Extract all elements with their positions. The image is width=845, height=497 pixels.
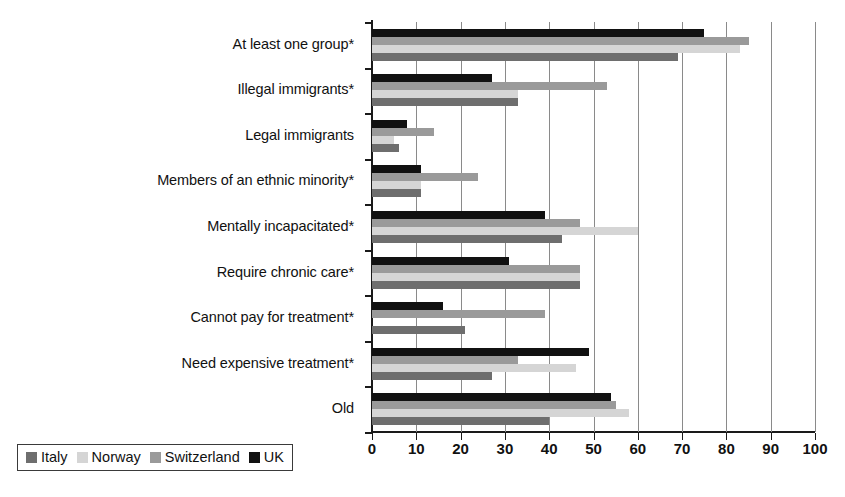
legend-swatch-icon bbox=[26, 452, 37, 463]
legend-swatch-icon bbox=[249, 452, 260, 463]
bar-italy bbox=[372, 372, 492, 380]
bar-uk bbox=[372, 29, 704, 37]
category-label: Legal immigrants bbox=[2, 128, 354, 143]
bar-italy bbox=[372, 326, 465, 334]
legend-item-norway[interactable]: Norway bbox=[77, 450, 141, 465]
x-axis-label: 90 bbox=[762, 440, 779, 457]
bar-group bbox=[372, 295, 815, 341]
category-axis-tick bbox=[365, 113, 372, 115]
bar-group bbox=[372, 68, 815, 114]
bar-norway bbox=[372, 273, 580, 281]
bar-uk bbox=[372, 120, 407, 128]
x-axis-label: 70 bbox=[674, 440, 691, 457]
x-axis-tick bbox=[461, 433, 462, 440]
gridline bbox=[815, 22, 816, 432]
bar-uk bbox=[372, 302, 443, 310]
category-label: Require chronic care* bbox=[2, 265, 354, 280]
bar-uk bbox=[372, 211, 545, 219]
bar-group bbox=[372, 113, 815, 159]
x-axis-label: 60 bbox=[629, 440, 646, 457]
bar-norway bbox=[372, 45, 740, 53]
x-axis-tick bbox=[505, 433, 506, 440]
bar-group bbox=[372, 341, 815, 387]
category-axis-labels: At least one group*Illegal immigrants*Le… bbox=[0, 22, 362, 432]
category-axis-tick bbox=[365, 432, 372, 434]
legend-label: Italy bbox=[41, 450, 68, 465]
legend-item-switzerland[interactable]: Switzerland bbox=[150, 450, 240, 465]
bar-norway bbox=[372, 181, 421, 189]
x-axis-tick bbox=[726, 433, 727, 440]
x-axis-label: 30 bbox=[497, 440, 514, 457]
bar-norway bbox=[372, 136, 394, 144]
bar-italy bbox=[372, 235, 562, 243]
bar-italy bbox=[372, 189, 421, 197]
bar-italy bbox=[372, 417, 549, 425]
category-label: Members of an ethnic minority* bbox=[2, 173, 354, 188]
x-axis-label: 0 bbox=[368, 440, 376, 457]
bar-chart: At least one group*Illegal immigrants*Le… bbox=[0, 0, 845, 497]
category-axis-tick bbox=[365, 341, 372, 343]
x-axis-label: 100 bbox=[802, 440, 827, 457]
legend-label: UK bbox=[264, 450, 284, 465]
bar-uk bbox=[372, 165, 421, 173]
bar-switzerland bbox=[372, 310, 545, 318]
x-axis-label: 40 bbox=[541, 440, 558, 457]
category-axis-tick bbox=[365, 386, 372, 388]
x-axis-tick bbox=[416, 433, 417, 440]
x-axis-tick bbox=[638, 433, 639, 440]
category-axis-tick bbox=[365, 204, 372, 206]
category-label: Mentally incapacitated* bbox=[2, 219, 354, 234]
legend-swatch-icon bbox=[150, 452, 161, 463]
x-axis-label: 50 bbox=[585, 440, 602, 457]
bar-norway bbox=[372, 227, 638, 235]
bar-uk bbox=[372, 348, 589, 356]
bar-norway bbox=[372, 409, 629, 417]
bar-switzerland bbox=[372, 401, 616, 409]
x-axis-tick bbox=[682, 433, 683, 440]
category-label: Illegal immigrants* bbox=[2, 82, 354, 97]
bar-uk bbox=[372, 257, 509, 265]
category-axis-tick bbox=[365, 250, 372, 252]
x-axis-label: 10 bbox=[408, 440, 425, 457]
category-axis-tick bbox=[365, 159, 372, 161]
legend-label: Switzerland bbox=[165, 450, 240, 465]
bar-italy bbox=[372, 53, 678, 61]
bar-norway bbox=[372, 90, 518, 98]
x-axis-label: 20 bbox=[452, 440, 469, 457]
bar-switzerland bbox=[372, 265, 580, 273]
bar-group bbox=[372, 250, 815, 296]
legend-swatch-icon bbox=[77, 452, 88, 463]
category-axis-tick bbox=[365, 22, 372, 24]
category-axis-tick bbox=[365, 68, 372, 70]
bar-switzerland bbox=[372, 356, 518, 364]
bar-group bbox=[372, 386, 815, 432]
x-axis-tick bbox=[372, 433, 373, 440]
legend-label: Norway bbox=[92, 450, 141, 465]
category-label: Cannot pay for treatment* bbox=[2, 310, 354, 325]
bar-uk bbox=[372, 74, 492, 82]
bar-switzerland bbox=[372, 128, 434, 136]
legend-item-uk[interactable]: UK bbox=[249, 450, 284, 465]
plot-area bbox=[372, 22, 815, 432]
x-axis-tick bbox=[771, 433, 772, 440]
chart-legend: ItalyNorwaySwitzerlandUK bbox=[17, 444, 293, 471]
x-axis-label: 80 bbox=[718, 440, 735, 457]
bar-switzerland bbox=[372, 173, 478, 181]
x-axis-tick bbox=[594, 433, 595, 440]
bar-switzerland bbox=[372, 37, 749, 45]
category-axis-tick bbox=[365, 295, 372, 297]
bar-uk bbox=[372, 393, 611, 401]
bar-italy bbox=[372, 98, 518, 106]
bar-switzerland bbox=[372, 219, 580, 227]
bar-group bbox=[372, 22, 815, 68]
bar-norway bbox=[372, 364, 576, 372]
legend-item-italy[interactable]: Italy bbox=[26, 450, 68, 465]
bar-switzerland bbox=[372, 82, 607, 90]
x-axis-tick-labels: 0102030405060708090100 bbox=[372, 440, 832, 464]
x-axis-tick bbox=[815, 433, 816, 440]
bar-group bbox=[372, 159, 815, 205]
category-label: Need expensive treatment* bbox=[2, 356, 354, 371]
bar-italy bbox=[372, 281, 580, 289]
x-axis-tick bbox=[549, 433, 550, 440]
bar-italy bbox=[372, 144, 399, 152]
